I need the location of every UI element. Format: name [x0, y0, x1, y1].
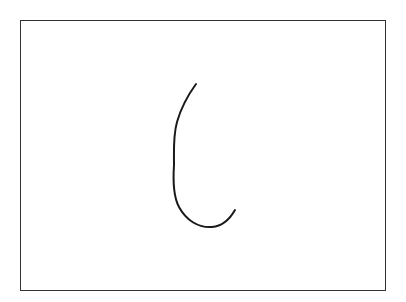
hand-drawn-stroke: [174, 84, 235, 227]
drawing-stroke-layer: [0, 0, 406, 302]
